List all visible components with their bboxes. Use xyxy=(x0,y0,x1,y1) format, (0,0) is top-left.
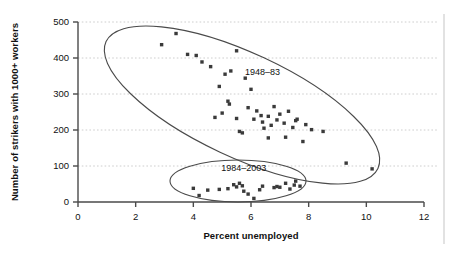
data-point xyxy=(287,110,290,113)
data-point xyxy=(223,73,226,76)
data-point xyxy=(242,190,245,193)
cluster-label-1948-83: 1948–83 xyxy=(245,67,280,77)
data-point xyxy=(209,65,212,68)
data-point xyxy=(294,179,297,182)
data-point xyxy=(293,183,296,186)
x-tick-label-0: 0 xyxy=(75,211,80,222)
data-point xyxy=(275,118,278,121)
x-axis-title: Percent unemployed xyxy=(203,230,298,241)
data-point xyxy=(228,102,231,105)
data-point xyxy=(301,140,304,143)
y-tick-label-500: 500 xyxy=(53,16,69,27)
y-tick-label-200: 200 xyxy=(53,124,69,135)
data-point xyxy=(321,130,324,133)
data-point xyxy=(197,194,200,197)
data-point xyxy=(304,123,307,126)
data-point xyxy=(186,53,189,56)
data-point xyxy=(174,32,177,35)
data-point xyxy=(284,136,287,139)
data-point xyxy=(252,197,255,200)
x-tick-label-10: 10 xyxy=(361,211,372,222)
data-point xyxy=(267,115,270,118)
1948-83-ellipse xyxy=(84,0,400,216)
data-point xyxy=(370,167,373,170)
data-point xyxy=(291,126,294,129)
data-point xyxy=(269,124,272,127)
data-point xyxy=(298,184,301,187)
gridlines-group xyxy=(78,22,437,166)
data-point xyxy=(282,121,285,124)
data-point xyxy=(259,114,262,117)
y-tick-label-0: 0 xyxy=(64,196,69,207)
tick-marks-group xyxy=(73,22,424,207)
data-point xyxy=(218,85,221,88)
scatter-plot: 0100200300400500 024681012 1948–831984–2… xyxy=(0,0,472,258)
y-tick-label-300: 300 xyxy=(53,88,69,99)
data-point xyxy=(261,120,264,123)
data-point xyxy=(310,128,313,131)
x-tick-label-8: 8 xyxy=(306,211,311,222)
data-point xyxy=(160,43,163,46)
x-tick-labels-group: 024681012 xyxy=(75,211,429,222)
data-point xyxy=(226,187,229,190)
data-point xyxy=(278,112,281,115)
data-point xyxy=(294,119,297,122)
data-point xyxy=(249,88,252,91)
data-point xyxy=(267,136,270,139)
y-tick-label-100: 100 xyxy=(53,160,69,171)
y-axis-title: Number of strikers with 1000+ workers xyxy=(9,23,20,201)
x-tick-label-4: 4 xyxy=(191,211,196,222)
data-point xyxy=(284,182,287,185)
cluster-ellipses-group xyxy=(84,0,400,216)
x-tick-label-6: 6 xyxy=(248,211,253,222)
data-point xyxy=(229,69,232,72)
data-point xyxy=(206,188,209,191)
data-point xyxy=(258,188,261,191)
data-point xyxy=(246,106,249,109)
x-tick-label-12: 12 xyxy=(419,211,430,222)
data-point xyxy=(288,187,291,190)
y-tick-labels-group: 0100200300400500 xyxy=(53,16,69,207)
data-point xyxy=(235,117,238,120)
data-point xyxy=(241,131,244,134)
cluster-label-1984-2003: 1984–2003 xyxy=(221,163,266,173)
data-point xyxy=(255,109,258,112)
data-point xyxy=(235,185,238,188)
data-points-group xyxy=(160,32,374,200)
data-point xyxy=(252,118,255,121)
x-tick-label-2: 2 xyxy=(133,211,138,222)
data-point xyxy=(218,188,221,191)
data-point xyxy=(344,161,347,164)
data-point xyxy=(195,54,198,57)
data-point xyxy=(278,186,281,189)
data-point xyxy=(213,116,216,119)
data-point xyxy=(246,192,249,195)
data-point xyxy=(220,111,223,114)
data-point xyxy=(235,49,238,52)
data-point xyxy=(261,184,264,187)
data-point xyxy=(262,127,265,130)
data-point xyxy=(192,187,195,190)
data-point xyxy=(241,184,244,187)
y-tick-label-400: 400 xyxy=(53,52,69,63)
chart-figure: 0100200300400500 024681012 1948–831984–2… xyxy=(0,0,472,258)
data-point xyxy=(272,105,275,108)
data-point xyxy=(200,60,203,63)
